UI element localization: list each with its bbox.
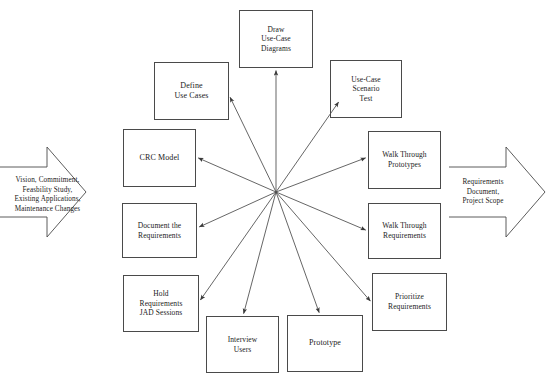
connector-to-prioritize-requirements: [276, 192, 370, 301]
output-arrow-text-line-0: Requirements: [452, 178, 514, 188]
process-node-label-line-0: Use-Case: [351, 75, 381, 85]
process-node-label-line-0: Draw: [267, 25, 284, 35]
process-node-label-line-1: Requirements: [383, 231, 426, 241]
process-node-label-line-0: Document the: [138, 221, 181, 231]
input-arrow-label: Vision, Commitment,Feasbility Study,Exis…: [0, 176, 95, 215]
process-node-define-use-cases[interactable]: DefineUse Cases: [154, 62, 229, 120]
process-node-label-line-0: Prototype: [309, 338, 341, 348]
process-node-label-line-0: CRC Model: [140, 153, 180, 163]
process-node-label-line-0: Walk Through: [382, 221, 426, 231]
process-node-hold-requirements-jad-sessions[interactable]: HoldRequirementsJAD Sessions: [123, 275, 199, 332]
process-node-draw-use-case-diagrams[interactable]: DrawUse-CaseDiagrams: [239, 10, 313, 68]
diagram-canvas: Vision, Commitment,Feasbility Study,Exis…: [0, 0, 550, 388]
input-arrow-text-line-0: Vision, Commitment,: [0, 176, 95, 186]
input-arrow-text-line-3: Maintenance Changes: [0, 205, 95, 215]
process-node-prototype[interactable]: Prototype: [287, 315, 363, 372]
process-node-label-line-1: Requirements: [140, 299, 183, 309]
process-node-label-line-0: Interview: [228, 335, 258, 345]
process-node-label-line-0: Hold: [153, 289, 168, 299]
process-node-crc-model[interactable]: CRC Model: [123, 129, 196, 187]
process-node-label-line-0: Prioritize: [395, 292, 424, 302]
process-node-label-line-0: Define: [180, 81, 202, 91]
output-arrow-label: RequirementsDocument,Project Scope: [452, 178, 514, 207]
process-node-label-line-1: Prototypes: [388, 160, 421, 170]
connector-to-crc-model: [198, 158, 276, 192]
process-node-label-line-0: Walk Through: [382, 150, 426, 160]
connector-to-document-the-requirements: [199, 192, 276, 227]
output-arrow-text-line-2: Project Scope: [452, 197, 514, 207]
process-node-walk-through-prototypes[interactable]: Walk ThroughPrototypes: [368, 131, 441, 189]
connector-to-walk-through-requirements: [276, 192, 366, 230]
process-node-label-line-1: Requirements: [138, 231, 181, 241]
process-node-label-line-1: Use-Case: [261, 34, 291, 44]
process-node-label-line-1: Use Cases: [174, 91, 208, 101]
output-arrow-text-line-1: Document,: [452, 188, 514, 198]
process-node-label-line-2: Test: [360, 94, 373, 104]
connector-to-interview-users: [244, 192, 276, 314]
connector-to-prototype: [276, 192, 319, 313]
process-node-prioritize-requirements[interactable]: PrioritizeRequirements: [372, 273, 447, 331]
process-node-document-the-requirements[interactable]: Document theRequirements: [122, 203, 197, 258]
process-node-label-line-1: Users: [234, 345, 252, 355]
process-node-walk-through-requirements[interactable]: Walk ThroughRequirements: [368, 203, 441, 259]
process-node-use-case-scenario-test[interactable]: Use-CaseScenarioTest: [330, 60, 402, 118]
process-node-label-line-1: Scenario: [352, 84, 379, 94]
connector-to-define-use-cases: [230, 97, 276, 192]
input-arrow-text-line-1: Feasbility Study,: [0, 186, 95, 196]
process-node-label-line-2: JAD Sessions: [140, 308, 183, 318]
process-node-interview-users[interactable]: InterviewUsers: [206, 316, 279, 373]
connector-to-walk-through-prototypes: [276, 158, 366, 192]
process-node-label-line-2: Diagrams: [261, 44, 291, 54]
connector-to-hold-requirements-jad-sessions: [200, 192, 276, 300]
input-arrow-text-line-2: Existing Applications,: [0, 195, 95, 205]
process-node-label-line-1: Requirements: [388, 302, 431, 312]
